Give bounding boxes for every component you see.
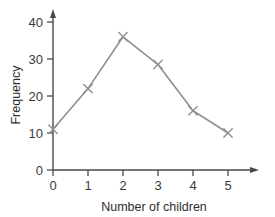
y-tick-label-10: 10 [29,126,43,141]
x-tick-label-3: 3 [154,178,161,193]
y-axis-title: Frequency [9,65,23,125]
y-tick-label-20: 20 [29,89,43,104]
x-tick-label-4: 4 [189,178,196,193]
x-axis-title: Number of children [101,200,207,214]
x-tick-label-0: 0 [49,178,56,193]
chart-background [0,0,275,217]
x-tick-label-5: 5 [224,178,231,193]
y-tick-label-0: 0 [36,163,43,178]
chart-canvas: 0 10 20 30 40 0 1 2 3 4 5 [0,0,275,217]
frequency-polygon-chart: 0 10 20 30 40 0 1 2 3 4 5 [0,0,275,217]
x-tick-label-1: 1 [84,178,91,193]
y-tick-label-40: 40 [29,15,43,30]
x-tick-label-2: 2 [119,178,126,193]
y-tick-label-30: 30 [29,52,43,67]
